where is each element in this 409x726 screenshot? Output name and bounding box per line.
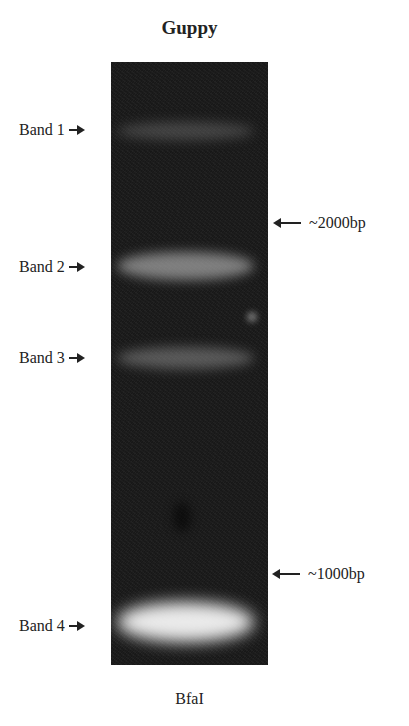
- gel-dark-smear: [173, 502, 191, 532]
- band-3-label: Band 3: [19, 349, 85, 367]
- gel-artifact-spot: [247, 312, 257, 322]
- left-arrow-icon: [273, 218, 301, 228]
- band-1-glow: [117, 122, 254, 140]
- band-3-glow: [117, 347, 254, 369]
- gel-lane-image: [111, 62, 268, 665]
- right-arrow-icon: [69, 621, 85, 631]
- enzyme-label: BfaI: [111, 690, 268, 708]
- band-1-text: Band 1: [19, 121, 65, 139]
- left-arrow-icon: [272, 569, 300, 579]
- right-arrow-icon: [69, 353, 85, 363]
- band-4-label: Band 4: [19, 617, 85, 635]
- marker-2000-text: ~2000bp: [309, 214, 366, 232]
- right-arrow-icon: [69, 125, 85, 135]
- band-1-label: Band 1: [19, 121, 85, 139]
- marker-1000-label: ~1000bp: [272, 565, 365, 583]
- band-4-glow: [117, 602, 254, 642]
- band-3-text: Band 3: [19, 349, 65, 367]
- band-2-glow: [117, 252, 254, 280]
- marker-2000-label: ~2000bp: [273, 214, 366, 232]
- band-2-text: Band 2: [19, 258, 65, 276]
- gel-title: Guppy: [111, 17, 268, 39]
- marker-1000-text: ~1000bp: [308, 565, 365, 583]
- band-4-text: Band 4: [19, 617, 65, 635]
- right-arrow-icon: [69, 262, 85, 272]
- band-2-label: Band 2: [19, 258, 85, 276]
